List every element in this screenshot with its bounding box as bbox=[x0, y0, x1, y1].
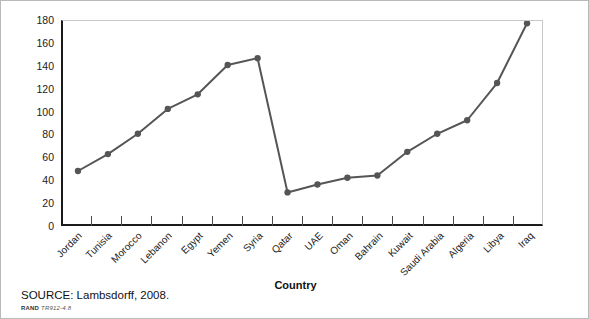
series-line bbox=[78, 23, 527, 192]
data-point-marker: Lebanon: 102 bbox=[165, 106, 171, 112]
y-axis-tick-label: 20 bbox=[28, 198, 54, 209]
x-axis-tick-mark bbox=[453, 216, 454, 226]
y-axis-tick-labels: 020406080100120140160180 bbox=[23, 20, 54, 226]
y-axis-tick-label: 60 bbox=[28, 152, 54, 163]
x-axis-tick-mark bbox=[392, 216, 393, 226]
data-point-marker: Saudi Arabia: 80 bbox=[434, 131, 440, 137]
rand-label: RAND bbox=[21, 305, 39, 311]
x-axis-tick-marks bbox=[61, 216, 543, 227]
data-point-marker: Oman: 41 bbox=[344, 175, 350, 181]
y-axis-tick-label: 160 bbox=[28, 38, 54, 49]
data-point-marker: Bahrain: 43 bbox=[374, 172, 380, 178]
line-series-svg: Jordan: 47Tunisia: 62Morocco: 80Lebanon:… bbox=[63, 21, 542, 224]
x-axis-tick-mark bbox=[332, 216, 333, 226]
figure-container: Ranking (1–180) 020406080100120140160180… bbox=[0, 0, 589, 319]
data-point-marker: Qatar: 28 bbox=[284, 189, 290, 195]
x-axis-tick-mark bbox=[483, 216, 484, 226]
y-axis-tick-label: 140 bbox=[28, 61, 54, 72]
x-axis-tick-mark bbox=[242, 216, 243, 226]
y-axis-tick-label: 40 bbox=[28, 175, 54, 186]
y-axis-tick-label: 80 bbox=[28, 129, 54, 140]
rand-number: TR912-4.8 bbox=[41, 305, 71, 311]
x-axis-tick-mark bbox=[121, 216, 122, 226]
x-axis-tick-mark bbox=[272, 216, 273, 226]
x-axis-tick-mark bbox=[91, 216, 92, 226]
y-axis-tick-label: 180 bbox=[28, 15, 54, 26]
data-point-marker: Syria: 147 bbox=[254, 55, 260, 61]
data-point-marker: Jordan: 47 bbox=[75, 168, 81, 174]
data-point-marker: Libya: 125 bbox=[494, 80, 500, 86]
data-point-marker: Yemen: 141 bbox=[224, 62, 230, 68]
y-axis-tick-label: 120 bbox=[28, 84, 54, 95]
data-point-marker: UAE: 35 bbox=[314, 181, 320, 187]
x-axis-tick-mark bbox=[513, 216, 514, 226]
x-axis-tick-mark bbox=[182, 216, 183, 226]
rand-document-id: RAND TR912-4.8 bbox=[21, 305, 71, 311]
data-point-marker: Tunisia: 62 bbox=[105, 151, 111, 157]
data-point-marker: Algeria: 92 bbox=[464, 117, 470, 123]
data-point-marker: Kuwait: 64 bbox=[404, 149, 410, 155]
x-axis-tick-mark bbox=[362, 216, 363, 226]
x-axis-tick-mark bbox=[151, 216, 152, 226]
plot-area: Jordan: 47Tunisia: 62Morocco: 80Lebanon:… bbox=[61, 20, 543, 226]
data-point-marker: Morocco: 80 bbox=[135, 131, 141, 137]
x-axis-tick-mark bbox=[423, 216, 424, 226]
y-axis-tick-label: 100 bbox=[28, 107, 54, 118]
x-axis-tick-mark bbox=[212, 216, 213, 226]
data-point-marker: Egypt: 115 bbox=[195, 91, 201, 97]
source-note: SOURCE: Lambsdorff, 2008. bbox=[21, 289, 169, 301]
x-axis-tick-mark bbox=[302, 216, 303, 226]
